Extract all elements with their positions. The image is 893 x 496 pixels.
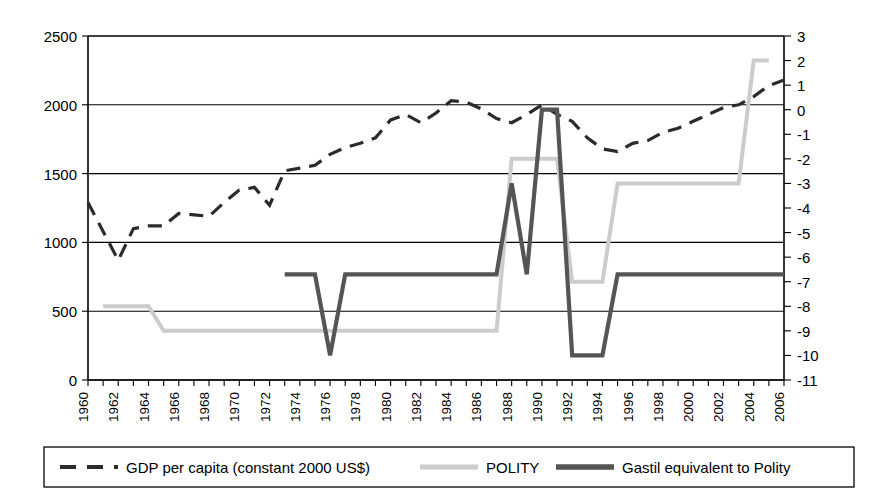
x-tick-label: 1990 (530, 392, 545, 422)
x-tick-label: 1984 (439, 392, 454, 423)
series-line-gastil (285, 110, 784, 356)
legend-label: Gastil equivalent to Polity (622, 459, 791, 476)
y-tick-label: 2500 (44, 28, 77, 45)
y2-tick-label: 3 (797, 28, 805, 45)
x-tick-label: 1998 (651, 392, 666, 422)
chart-figure: 05001000150020002500 -11-10-9-8-7-6-5-4-… (0, 0, 893, 496)
y-tick-label: 0 (69, 372, 77, 389)
y2-tick-label: 1 (797, 77, 805, 94)
y-tick-label: 500 (52, 303, 77, 320)
x-tick-label: 1974 (288, 392, 303, 423)
y2-tick-label: -4 (797, 200, 810, 217)
y-axis-tick-labels: 05001000150020002500 (44, 28, 77, 389)
x-tick-label: 1960 (76, 392, 91, 422)
x-tick-label: 2004 (742, 392, 757, 423)
y-tick-label: 1000 (44, 234, 77, 251)
x-tick-label: 1992 (560, 392, 575, 422)
x-tick-label: 1970 (227, 392, 242, 422)
y2-tick-label: -1 (797, 126, 810, 143)
y2-tick-label: -8 (797, 298, 810, 315)
y2-tick-label: -2 (797, 151, 810, 168)
x-tick-label: 1980 (379, 392, 394, 422)
y2-tick-label: -5 (797, 225, 810, 242)
x-tick-label: 1966 (167, 392, 182, 422)
line-chart: 05001000150020002500 -11-10-9-8-7-6-5-4-… (0, 0, 893, 496)
x-tick-label: 1976 (318, 392, 333, 422)
series-line-polity (103, 61, 769, 331)
legend-label: GDP per capita (constant 2000 US$) (126, 459, 370, 476)
x-tick-label: 1968 (197, 392, 212, 422)
y-tick-label: 2000 (44, 97, 77, 114)
x-tick-label: 2006 (772, 392, 787, 422)
x-tick-label: 1972 (258, 392, 273, 422)
y2-tick-label: -7 (797, 274, 810, 291)
y2-tick-label: -6 (797, 249, 810, 266)
chart-legend: GDP per capita (constant 2000 US$)POLITY… (44, 447, 854, 487)
series-line-gdp (88, 80, 784, 260)
gridlines-group (88, 36, 784, 380)
x-tick-label: 2002 (711, 392, 726, 422)
x-tick-label: 1996 (621, 392, 636, 422)
x-tick-label: 1982 (409, 392, 424, 422)
y2-axis-tick-labels: -11-10-9-8-7-6-5-4-3-2-10123 (797, 28, 819, 389)
x-tick-label: 2000 (681, 392, 696, 422)
x-tick-label: 1988 (500, 392, 515, 422)
x-tick-label: 1986 (469, 392, 484, 422)
x-axis-tick-labels: 1960196219641966196819701972197419761978… (76, 392, 787, 423)
y2-tick-label: 0 (797, 102, 805, 119)
x-tick-label: 1962 (106, 392, 121, 422)
y2-tick-label: -11 (797, 372, 818, 389)
axis-ticks-group (82, 36, 791, 386)
plot-frame (88, 36, 784, 380)
x-tick-label: 1994 (590, 392, 605, 423)
y2-tick-label: -10 (797, 347, 819, 364)
y2-tick-label: -9 (797, 323, 810, 340)
y2-tick-label: 2 (797, 53, 805, 70)
x-tick-label: 1978 (348, 392, 363, 422)
x-tick-label: 1964 (137, 392, 152, 423)
y-tick-label: 1500 (44, 166, 77, 183)
y2-tick-label: -3 (797, 175, 810, 192)
legend-label: POLITY (486, 459, 539, 476)
